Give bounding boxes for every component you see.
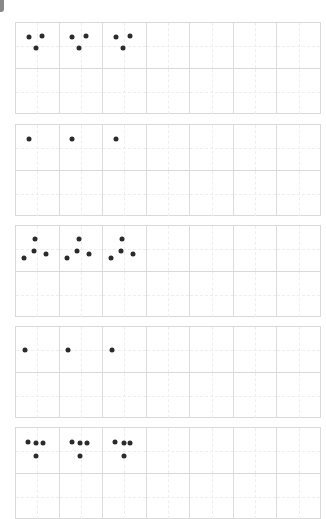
pattern-dot [33, 45, 38, 50]
pattern-dot [75, 248, 80, 253]
grid-cell[interactable] [60, 171, 104, 216]
grid-cell[interactable] [103, 125, 147, 170]
grid-cell[interactable] [234, 373, 278, 418]
grid-cell[interactable] [60, 373, 104, 418]
pattern-dot [31, 248, 36, 253]
pattern-dot [121, 441, 126, 446]
grid-cell[interactable] [103, 272, 147, 317]
grid-cell[interactable] [147, 373, 191, 418]
grid-cell[interactable] [277, 125, 320, 170]
grid-cell[interactable] [234, 171, 278, 216]
grid-cell[interactable] [190, 474, 234, 519]
grid-cell[interactable] [16, 373, 60, 418]
grid-cell[interactable] [147, 428, 191, 473]
grid-cell[interactable] [277, 23, 320, 68]
grid-cell[interactable] [190, 171, 234, 216]
grid-cell[interactable] [277, 272, 320, 317]
model-row [16, 327, 320, 373]
pattern-dot [66, 347, 71, 352]
grid-cell[interactable] [60, 474, 104, 519]
pattern-dot [34, 453, 39, 458]
grid-cell[interactable] [147, 226, 191, 271]
pattern-dot [120, 45, 125, 50]
grid-cell[interactable] [234, 327, 278, 372]
grid-cell[interactable] [234, 428, 278, 473]
grid-cell[interactable] [103, 23, 147, 68]
pattern-dot [120, 236, 125, 241]
grid-cell[interactable] [60, 125, 104, 170]
grid-cell[interactable] [16, 327, 60, 372]
pattern-dot [22, 347, 27, 352]
grid-cell[interactable] [190, 69, 234, 114]
grid-cell[interactable] [190, 327, 234, 372]
pattern-dot [26, 34, 31, 39]
grid-cell[interactable] [190, 226, 234, 271]
pattern-dot [113, 34, 118, 39]
grid-cell[interactable] [147, 125, 191, 170]
grid-cell[interactable] [60, 272, 104, 317]
grid-cell[interactable] [60, 69, 104, 114]
practice-block-single-dot-mid [15, 326, 321, 418]
pattern-dot [43, 251, 48, 256]
pattern-dot [108, 256, 113, 261]
grid-cell[interactable] [103, 69, 147, 114]
grid-cell[interactable] [16, 474, 60, 519]
grid-cell[interactable] [16, 428, 60, 473]
grid-cell[interactable] [234, 226, 278, 271]
pattern-dot [40, 33, 45, 38]
grid-cell[interactable] [190, 125, 234, 170]
practice-row [16, 373, 320, 418]
grid-cell[interactable] [60, 428, 104, 473]
pattern-dot [83, 33, 88, 38]
grid-cell[interactable] [277, 327, 320, 372]
practice-block-four-dots-arrow [15, 225, 321, 317]
grid-cell[interactable] [277, 69, 320, 114]
practice-block-single-dot [15, 124, 321, 216]
grid-cell[interactable] [147, 69, 191, 114]
grid-cell[interactable] [16, 226, 60, 271]
grid-cell[interactable] [16, 69, 60, 114]
grid-cell[interactable] [234, 23, 278, 68]
grid-cell[interactable] [190, 373, 234, 418]
pattern-dot [70, 34, 75, 39]
pattern-dot [130, 251, 135, 256]
grid-cell[interactable] [234, 125, 278, 170]
grid-cell[interactable] [16, 125, 60, 170]
practice-block-four-dots-t [15, 427, 321, 519]
pattern-dot [121, 453, 126, 458]
practice-row [16, 272, 320, 317]
grid-cell[interactable] [190, 272, 234, 317]
grid-cell[interactable] [147, 272, 191, 317]
practice-row [16, 69, 320, 114]
grid-cell[interactable] [103, 373, 147, 418]
grid-cell[interactable] [60, 226, 104, 271]
grid-cell[interactable] [60, 327, 104, 372]
grid-cell[interactable] [103, 327, 147, 372]
pattern-dot [87, 251, 92, 256]
grid-cell[interactable] [103, 474, 147, 519]
grid-cell[interactable] [277, 226, 320, 271]
grid-cell[interactable] [147, 474, 191, 519]
grid-cell[interactable] [277, 373, 320, 418]
grid-cell[interactable] [234, 272, 278, 317]
grid-cell[interactable] [277, 428, 320, 473]
grid-cell[interactable] [147, 23, 191, 68]
grid-cell[interactable] [277, 171, 320, 216]
grid-cell[interactable] [103, 226, 147, 271]
pattern-dot [119, 248, 124, 253]
grid-cell[interactable] [234, 69, 278, 114]
grid-cell[interactable] [60, 23, 104, 68]
grid-cell[interactable] [16, 171, 60, 216]
grid-cell[interactable] [234, 474, 278, 519]
grid-cell[interactable] [103, 428, 147, 473]
grid-cell[interactable] [16, 23, 60, 68]
grid-cell[interactable] [16, 272, 60, 317]
model-row [16, 23, 320, 69]
grid-cell[interactable] [147, 171, 191, 216]
grid-cell[interactable] [190, 23, 234, 68]
grid-cell[interactable] [147, 327, 191, 372]
grid-cell[interactable] [103, 171, 147, 216]
pattern-dot [65, 256, 70, 261]
grid-cell[interactable] [277, 474, 320, 519]
grid-cell[interactable] [190, 428, 234, 473]
